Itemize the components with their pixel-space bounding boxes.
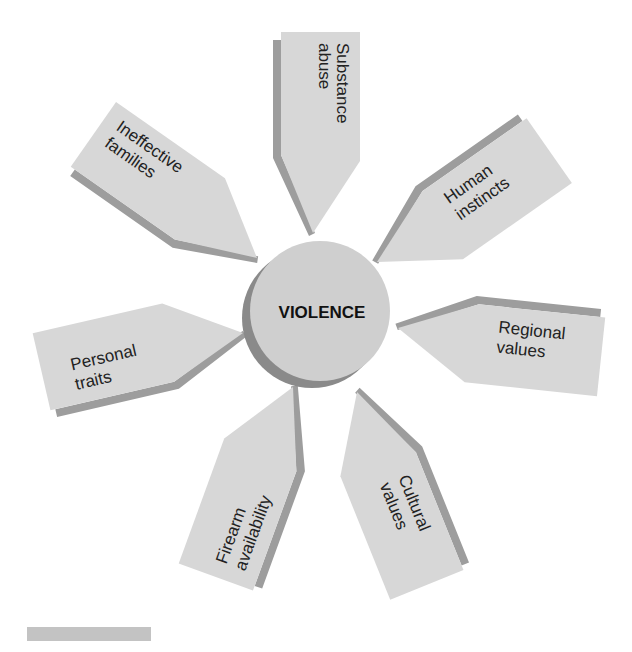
factor-regional-values: Regional values [390,288,606,396]
factor-personal-traits: Personal traits [33,287,255,419]
factor-human-instincts: Human instincts [352,112,572,303]
center-label: VIOLENCE [279,303,366,322]
factor-substance-abuse: Substance abuse [273,32,360,236]
factor-ineffective-families: Ineffective families [66,102,286,293]
factor-label-line1: Substance [333,43,352,123]
violence-factors-diagram: Substance abuse Human instincts Regional… [0,0,632,652]
center-node: VIOLENCE [242,241,390,388]
factor-firearm-availability: Firearm availability [179,368,332,593]
footer-bar [27,627,151,641]
factor-label-line2: abuse [315,43,334,89]
factor-cultural-values: Cultural values [312,374,471,599]
